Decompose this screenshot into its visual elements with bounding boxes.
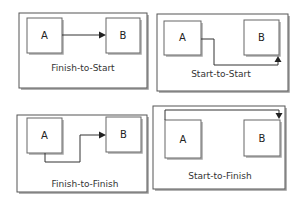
panel-caption: Finish-to-Start	[51, 63, 115, 73]
task-b-label: B	[259, 133, 266, 144]
panel-caption: Finish-to-Finish	[52, 179, 119, 189]
dependency-types-diagram: A B Finish-to-Start A B Start-to-Start A…	[0, 0, 303, 199]
panel-start-to-start: A B Start-to-Start	[157, 14, 289, 92]
task-a-label: A	[41, 30, 48, 41]
panel-finish-to-start: A B Finish-to-Start	[19, 13, 148, 89]
panel-caption: Start-to-Finish	[188, 171, 251, 181]
task-b-label: B	[120, 30, 127, 41]
task-a-label: A	[41, 130, 48, 141]
task-b-label: B	[258, 32, 265, 43]
panel-caption: Start-to-Start	[191, 69, 251, 79]
task-a-label: A	[179, 32, 186, 43]
task-b-label: B	[120, 129, 127, 140]
task-a-label: A	[180, 134, 187, 145]
panel-finish-to-finish: A B Finish-to-Finish	[17, 115, 148, 193]
panel-start-to-finish: A B Start-to-Finish	[153, 106, 286, 190]
